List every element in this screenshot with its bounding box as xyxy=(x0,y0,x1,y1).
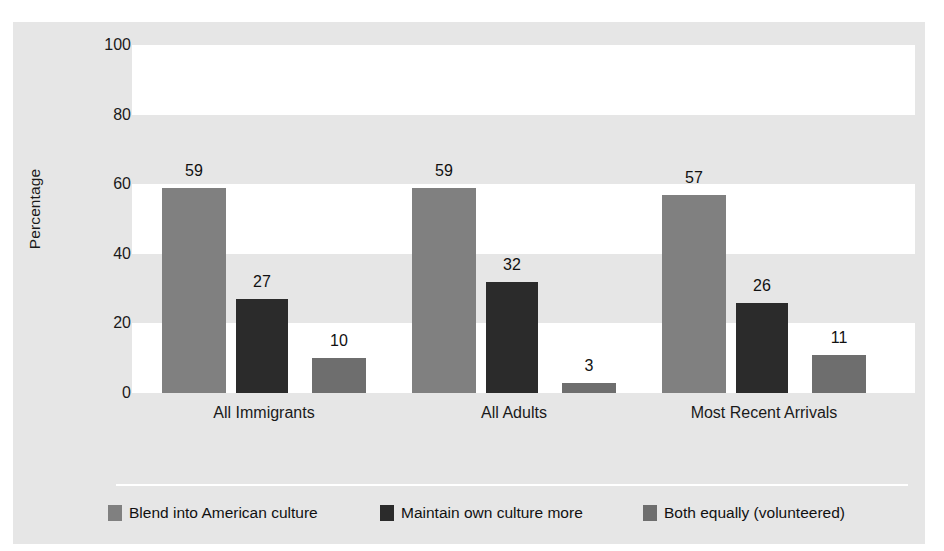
y-tick-100: 100 xyxy=(87,37,131,53)
bar-most-recent-both xyxy=(812,355,866,393)
chart-legend: Blend into American culture Maintain own… xyxy=(108,505,918,531)
bar-value-all-adults-both: 3 xyxy=(554,358,624,374)
bar-all-adults-maintain xyxy=(486,282,538,393)
legend-separator-top xyxy=(116,484,908,486)
y-tick-40: 40 xyxy=(87,246,131,262)
bar-value-most-recent-maintain: 26 xyxy=(727,278,797,294)
y-axis-title: Percentage xyxy=(26,149,44,269)
x-category-label-all-immigrants: All Immigrants xyxy=(213,404,314,422)
legend-item-both-equally-volunteered[interactable]: Both equally (volunteered) xyxy=(643,505,845,521)
bar-value-most-recent-blend: 57 xyxy=(659,170,729,186)
legend-swatch-icon-series-2 xyxy=(643,505,657,521)
legend-item-blend-into-american-culture[interactable]: Blend into American culture xyxy=(108,505,318,521)
legend-swatch-icon-series-0 xyxy=(108,505,122,521)
y-tick-0: 0 xyxy=(87,385,131,401)
chart-figure-panel: Percentage 100 80 60 40 20 0 59 27 10 xyxy=(13,22,925,544)
y-tick-80: 80 xyxy=(87,107,131,123)
bar-value-all-adults-blend: 59 xyxy=(409,163,479,179)
y-tick-20: 20 xyxy=(87,315,131,331)
legend-label-series-0: Blend into American culture xyxy=(129,505,318,521)
bar-value-all-immigrants-blend: 59 xyxy=(159,163,229,179)
bar-all-immigrants-maintain xyxy=(236,299,288,393)
bar-most-recent-blend xyxy=(662,195,726,393)
x-axis-category-labels: All Immigrants All Adults Most Recent Ar… xyxy=(132,404,915,432)
bar-value-all-immigrants-both: 10 xyxy=(304,333,374,349)
x-category-label-all-adults: All Adults xyxy=(481,404,547,422)
legend-label-series-2: Both equally (volunteered) xyxy=(664,505,845,521)
bar-value-all-adults-maintain: 32 xyxy=(477,257,547,273)
bar-all-adults-both xyxy=(562,383,616,393)
bars-layer: 59 27 10 59 32 3 57 26 11 xyxy=(132,45,915,393)
y-axis-tick-labels: 100 80 60 40 20 0 xyxy=(61,22,131,434)
x-category-label-most-recent-arrivals: Most Recent Arrivals xyxy=(691,404,838,422)
legend-swatch-icon-series-1 xyxy=(380,505,394,521)
plot-region: Percentage 100 80 60 40 20 0 59 27 10 xyxy=(13,22,925,434)
bar-all-adults-blend xyxy=(412,188,476,393)
y-tick-60: 60 xyxy=(87,176,131,192)
bar-value-most-recent-both: 11 xyxy=(804,330,874,346)
bar-most-recent-maintain xyxy=(736,303,788,394)
legend-label-series-1: Maintain own culture more xyxy=(401,505,583,521)
bar-all-immigrants-both xyxy=(312,358,366,393)
legend-item-maintain-own-culture-more[interactable]: Maintain own culture more xyxy=(380,505,583,521)
bar-value-all-immigrants-maintain: 27 xyxy=(227,274,297,290)
bar-all-immigrants-blend xyxy=(162,188,226,393)
